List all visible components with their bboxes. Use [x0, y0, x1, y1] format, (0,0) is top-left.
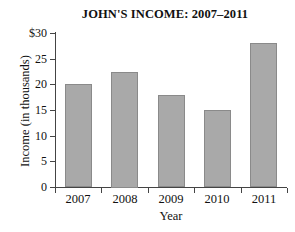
x-tick-mark	[287, 188, 288, 193]
bar-chart: JOHN'S INCOME: 2007–2011 Income (in thou…	[0, 0, 295, 232]
y-tick-label: 10	[35, 130, 47, 142]
x-tick-label: 2011	[241, 192, 287, 207]
x-tick-label: 2007	[55, 192, 101, 207]
x-tick-label: 2009	[148, 192, 194, 207]
y-axis-line	[55, 32, 56, 188]
y-tick-mark	[50, 33, 55, 34]
y-tick-label: 15	[35, 104, 47, 116]
y-axis-title-label: Income (in thousands)	[18, 55, 32, 167]
bar	[65, 84, 92, 187]
chart-title: JOHN'S INCOME: 2007–2011	[40, 7, 290, 22]
y-tick-label: 5	[41, 155, 47, 167]
y-tick-mark	[50, 84, 55, 85]
y-tick-mark	[50, 161, 55, 162]
x-axis-line	[55, 187, 287, 188]
y-tick-label: 0	[41, 181, 47, 193]
bar	[250, 43, 277, 187]
bar	[111, 72, 138, 188]
y-tick-mark	[50, 59, 55, 60]
y-tick-label: 20	[35, 78, 47, 90]
bar	[204, 110, 231, 187]
x-axis-title: Year	[55, 209, 287, 224]
y-tick-mark	[50, 110, 55, 111]
x-tick-label: 2010	[194, 192, 240, 207]
y-axis-title: Income (in thousands)	[15, 36, 31, 186]
x-tick-label: 2008	[102, 192, 148, 207]
bar	[158, 95, 185, 187]
y-tick-label: 25	[35, 53, 47, 65]
y-tick-mark	[50, 136, 55, 137]
y-tick-label: $30	[29, 27, 47, 39]
